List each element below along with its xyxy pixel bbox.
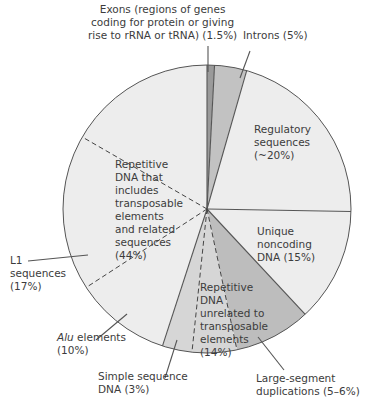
label-unrelated-line1: Repetitive <box>200 281 268 294</box>
label-alu-rest: elements <box>74 331 126 343</box>
label-transposable-line5: elements <box>115 210 183 223</box>
label-transposable-line7: sequences <box>115 236 183 249</box>
label-unrelated-line5: elements <box>200 333 268 346</box>
label-transposable: Repetitive DNA that includes transposabl… <box>115 158 183 262</box>
label-transposable-line3: includes <box>115 184 183 197</box>
label-alu: Alu elements (10%) <box>57 331 126 357</box>
label-l1-line2: sequences <box>10 267 66 280</box>
label-introns: Introns (5%) <box>243 29 308 42</box>
label-transposable-line4: transposable <box>115 197 183 210</box>
label-transposable-line6: and related <box>115 223 183 236</box>
label-regulatory-line1: Regulatory <box>254 123 311 136</box>
label-unrelated-line2: DNA <box>200 294 268 307</box>
label-unique-line2: noncoding <box>257 238 315 251</box>
pie-chart <box>0 0 371 402</box>
label-alu-italic: Alu <box>57 331 74 343</box>
label-exons: Exons (regions of genes coding for prote… <box>88 3 237 42</box>
label-alu-line1: Alu elements <box>57 331 126 344</box>
label-largeseg-line1: Large-segment <box>256 372 360 385</box>
label-transposable-line1: Repetitive <box>115 158 183 171</box>
label-regulatory-line2: sequences <box>254 136 311 149</box>
label-regulatory: Regulatory sequences (~20%) <box>254 123 311 162</box>
label-largeseg-line2: duplications (5–6%) <box>256 385 360 398</box>
label-unique-line3: DNA (15%) <box>257 251 315 264</box>
label-regulatory-line3: (~20%) <box>254 149 311 162</box>
label-l1-line1: L1 <box>10 254 66 267</box>
label-exons-line2: coding for protein or giving <box>88 16 237 29</box>
label-l1: L1 sequences (17%) <box>10 254 66 293</box>
label-transposable-line8: (44%) <box>115 249 183 262</box>
label-alu-pct: (10%) <box>57 344 126 357</box>
label-unique: Unique noncoding DNA (15%) <box>257 225 315 264</box>
label-exons-line1: Exons (regions of genes <box>88 3 237 16</box>
label-unrelated-line6: (14%) <box>200 346 268 359</box>
label-unrelated-line4: transposable <box>200 320 268 333</box>
label-unrelated: Repetitive DNA unrelated to transposable… <box>200 281 268 359</box>
label-l1-line3: (17%) <box>10 280 66 293</box>
label-simple-line2: DNA (3%) <box>98 383 188 396</box>
label-exons-line3: rise to rRNA or tRNA) (1.5%) <box>88 29 237 42</box>
label-unrelated-line3: unrelated to <box>200 307 268 320</box>
label-simple-line1: Simple sequence <box>98 370 188 383</box>
label-transposable-line2: DNA that <box>115 171 183 184</box>
label-unique-line1: Unique <box>257 225 315 238</box>
label-simple: Simple sequence DNA (3%) <box>98 370 188 396</box>
label-largeseg: Large-segment duplications (5–6%) <box>256 372 360 398</box>
